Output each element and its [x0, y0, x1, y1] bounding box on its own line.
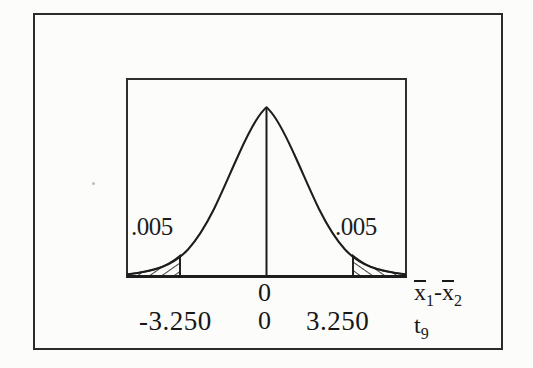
x-bar-2-subscript: 2: [454, 292, 462, 309]
t-statistic-axis-caption: t9: [414, 313, 500, 342]
minus-sign: -: [434, 279, 442, 305]
mean-difference-zero-label: 0: [258, 278, 272, 308]
mean-difference-axis-caption: x1-x2: [414, 279, 500, 309]
scan-artifact-speck: [92, 182, 95, 185]
degrees-of-freedom-subscript: 9: [421, 324, 429, 341]
t-distribution-plot: [126, 78, 407, 278]
right-tail-probability-label: .005: [335, 213, 377, 241]
axis-captions: x1-x2 t9: [414, 279, 500, 341]
figure-root: .005 .005 0 -3.250 0 3.250 x1-x2 t9: [0, 0, 533, 368]
lower-critical-value-label: -3.250: [139, 306, 212, 337]
t-statistic-zero-label: 0: [258, 306, 272, 336]
x-bar-1-glyph: x: [414, 279, 426, 304]
left-tail-probability-label: .005: [131, 213, 173, 241]
t-glyph: t: [414, 312, 421, 338]
x-bar-1-subscript: 1: [426, 292, 434, 309]
x-bar-2-glyph: x: [442, 279, 454, 304]
upper-critical-value-label: 3.250: [306, 306, 369, 337]
